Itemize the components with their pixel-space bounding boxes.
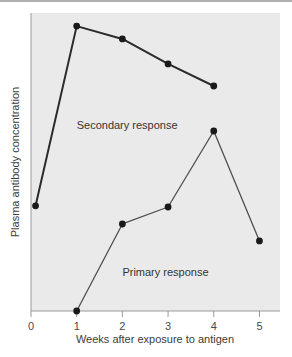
data-point-marker	[210, 83, 217, 90]
data-point-marker	[32, 202, 39, 209]
x-axis-tick-label: 5	[256, 320, 262, 332]
series-annotation-label: Primary response	[122, 266, 208, 278]
figure-canvas: 012345 Secondary responsePrimary respons…	[0, 0, 292, 357]
data-point-marker	[119, 36, 126, 43]
antibody-response-line-chart: 012345 Secondary responsePrimary respons…	[0, 0, 292, 357]
x-axis-tick-labels: 012345	[28, 320, 263, 332]
series-annotation-label: Secondary response	[77, 119, 178, 131]
x-axis-title: Weeks after exposure to antigen	[76, 333, 234, 345]
data-point-marker	[119, 221, 126, 228]
data-point-marker	[256, 238, 263, 245]
data-point-marker	[73, 23, 80, 30]
data-point-marker	[165, 204, 172, 211]
x-axis-tick-label: 4	[211, 320, 217, 332]
x-axis-tick-label: 2	[119, 320, 125, 332]
x-axis-tick-label: 3	[165, 320, 171, 332]
data-point-marker	[210, 128, 217, 135]
data-point-marker	[73, 308, 80, 315]
x-axis-tick-label: 0	[28, 320, 34, 332]
data-point-marker	[165, 61, 172, 68]
x-axis-tick-label: 1	[74, 320, 80, 332]
y-axis-title: Plasma antibody concentration	[9, 87, 21, 237]
x-axis-tick-marks	[31, 311, 259, 317]
